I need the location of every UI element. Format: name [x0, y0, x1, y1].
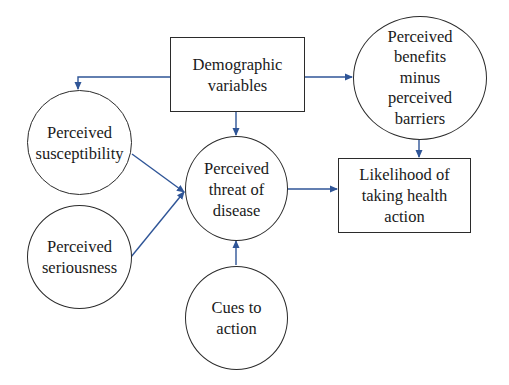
node-label-line: Perceived — [387, 27, 452, 48]
node-label-line: disease — [213, 200, 261, 221]
node-demographic-variables: Demographic variables — [170, 37, 305, 112]
node-label-line: Perceived — [47, 236, 112, 257]
node-label-line: Perceived — [47, 122, 112, 143]
node-label-line: minus — [400, 68, 440, 89]
node-label-line: Likelihood of — [359, 164, 449, 185]
node-label-line: susceptibility — [36, 143, 124, 164]
node-label-line: seriousness — [42, 257, 117, 278]
edge-seriousness-threat — [131, 192, 184, 257]
edge-susceptibility-threat — [132, 154, 184, 192]
node-label-line: Cues to — [212, 297, 262, 318]
node-label-line: action — [384, 206, 424, 227]
node-perceived-benefits: Perceived benefits minus perceived barri… — [353, 16, 487, 140]
node-label-line: Demographic — [193, 54, 283, 75]
edge-demographic-susceptibility — [78, 77, 170, 89]
node-label-line: taking health — [362, 185, 448, 206]
node-cues-to-action: Cues to action — [185, 266, 288, 370]
node-label-line: perceived — [388, 88, 452, 109]
node-likelihood-of-action: Likelihood of taking health action — [338, 158, 471, 233]
node-label-line: action — [216, 318, 256, 339]
node-label-line: Perceived — [204, 158, 269, 179]
node-label-line: benefits — [394, 47, 446, 68]
node-perceived-susceptibility: Perceived susceptibility — [27, 90, 132, 195]
node-label-line: barriers — [395, 109, 445, 130]
node-perceived-seriousness: Perceived seriousness — [27, 205, 132, 309]
node-label-line: threat of — [209, 179, 264, 200]
node-label-line: variables — [208, 75, 268, 96]
node-perceived-threat: Perceived threat of disease — [185, 136, 288, 241]
